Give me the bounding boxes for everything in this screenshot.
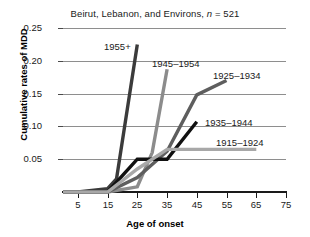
series-line xyxy=(63,149,256,192)
series-layer xyxy=(0,0,310,237)
series-line xyxy=(63,69,167,192)
series-label: 1935–1944 xyxy=(205,117,253,128)
series-label: 1915–1924 xyxy=(216,137,264,148)
series-label: 1955+ xyxy=(104,41,131,52)
chart-container: Beirut, Lebanon, and Environs, n = 521 C… xyxy=(0,0,310,237)
series-label: 1925–1934 xyxy=(213,70,261,81)
series-line xyxy=(63,81,227,193)
series-label: 1945–1954 xyxy=(152,58,200,69)
